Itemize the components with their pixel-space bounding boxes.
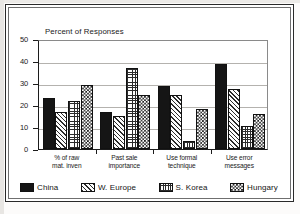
x-axis-category-label-line: messages (203, 162, 275, 170)
bar-w-europe (228, 89, 240, 150)
x-axis-tick-mark (153, 150, 154, 154)
bar-hungary (253, 114, 265, 149)
legend-swatch (81, 183, 95, 192)
legend-item-hungary[interactable]: Hungary (230, 183, 278, 192)
legend-label: Hungary (247, 183, 278, 192)
bar-w-europe (55, 112, 67, 149)
x-axis-tick-mark (96, 150, 97, 154)
y-axis-tick-label: 10 (12, 124, 28, 132)
x-axis-tick-mark (211, 150, 212, 154)
legend-item-w-europe[interactable]: W. Europe (81, 183, 136, 192)
y-axis-tick-label: 30 (12, 80, 28, 88)
bar-s-korea (68, 101, 80, 149)
y-axis-tick-label: 50 (12, 36, 28, 44)
y-axis-tick-label: 0 (12, 146, 28, 154)
legend-label: China (37, 183, 58, 192)
figure: Percent of Responses 01020304050 % of ra… (0, 0, 300, 214)
y-axis-tick-label: 40 (12, 58, 28, 66)
bar-group (100, 39, 150, 149)
bar-china (100, 112, 112, 149)
legend-swatch (159, 183, 173, 192)
chart-legend: ChinaW. EuropeS. KoreaHungary (20, 180, 278, 194)
bar-hungary (196, 109, 208, 149)
chart-title: Percent of Responses (45, 27, 124, 36)
bar-group (158, 39, 208, 149)
legend-item-s-korea[interactable]: S. Korea (159, 183, 208, 192)
bar-w-europe (113, 116, 125, 149)
bar-s-korea (126, 68, 138, 149)
legend-swatch (20, 183, 34, 192)
legend-label: W. Europe (98, 183, 136, 192)
bar-hungary (138, 95, 150, 149)
bar-hungary (81, 85, 93, 149)
bar-s-korea (183, 141, 195, 149)
bar-group (215, 39, 265, 149)
bar-china (43, 98, 55, 149)
legend-swatch (230, 183, 244, 192)
bar-china (158, 86, 170, 149)
y-axis-tick-label: 20 (12, 102, 28, 110)
legend-item-china[interactable]: China (20, 183, 58, 192)
bar-group (43, 39, 93, 149)
bar-s-korea (241, 126, 253, 149)
bar-china (215, 64, 227, 149)
y-axis-tick-mark (33, 150, 38, 151)
legend-label: S. Korea (176, 183, 208, 192)
x-axis-category-label-line: Use error (203, 154, 275, 162)
plot-area (38, 40, 268, 150)
x-axis-category-label: Use errormessages (203, 154, 275, 170)
bar-w-europe (170, 95, 182, 149)
